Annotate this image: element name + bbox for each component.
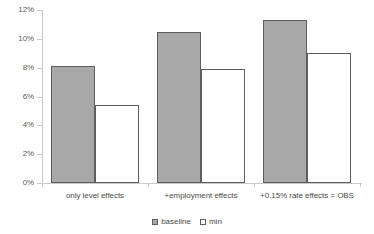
x-axis-tick <box>148 183 149 187</box>
chart-legend: baselinemin <box>0 218 374 226</box>
y-axis-tick-label: 2% <box>0 150 34 158</box>
x-axis-category-label: +0.15% rate effects = OBS <box>254 191 360 201</box>
x-axis-tick <box>360 183 361 187</box>
legend-entry-min[interactable]: min <box>200 218 222 226</box>
y-axis-tick-label: 10% <box>0 35 34 43</box>
bar-baseline-2 <box>263 20 307 183</box>
legend-swatch-icon <box>200 219 206 225</box>
y-axis-tick-label: 4% <box>0 121 34 129</box>
x-axis-tick <box>42 183 43 187</box>
bar-min-0 <box>95 105 139 183</box>
y-axis-tick-label: 6% <box>0 93 34 101</box>
bar-min-2 <box>307 53 351 183</box>
x-axis-tick <box>254 183 255 187</box>
x-axis-category-label: only level effects <box>42 191 148 201</box>
y-axis-tick-label: 12% <box>0 6 34 14</box>
bar-min-1 <box>201 69 245 183</box>
y-axis-tick-label: 8% <box>0 64 34 72</box>
y-axis-tick-label: 0% <box>0 179 34 187</box>
bar-baseline-0 <box>51 66 95 183</box>
plot-area <box>42 10 360 183</box>
bar-chart: 12%10%8%6%4%2%0% only level effects+empl… <box>0 0 374 234</box>
legend-label: min <box>209 218 222 226</box>
bar-baseline-1 <box>157 32 201 183</box>
legend-label: baseline <box>161 218 191 226</box>
legend-swatch-icon <box>152 219 158 225</box>
legend-entry-baseline[interactable]: baseline <box>152 218 191 226</box>
x-axis-category-label: +employment effects <box>148 191 254 201</box>
x-axis-line <box>42 183 362 184</box>
